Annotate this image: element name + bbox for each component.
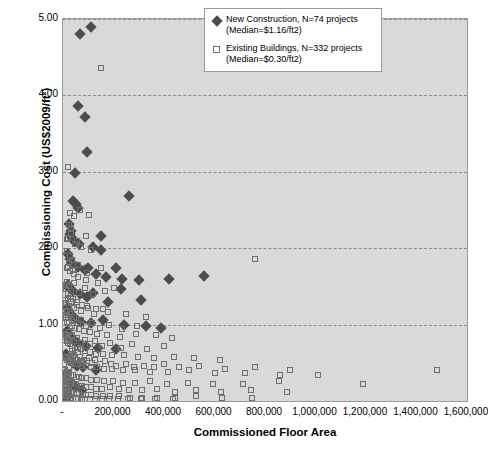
data-point [240, 381, 246, 387]
data-point [217, 357, 223, 363]
legend-label-line1: New Construction, N=74 projects [226, 14, 358, 24]
data-point [210, 381, 216, 387]
data-point [120, 367, 126, 373]
data-point [185, 380, 191, 386]
data-point [133, 275, 144, 286]
data-point [153, 332, 159, 338]
data-point [99, 343, 105, 349]
data-point [193, 387, 199, 393]
data-point [360, 381, 366, 387]
chart-legend: New Construction, N=74 projects (Median=… [204, 8, 382, 72]
data-point [72, 100, 83, 111]
data-point [116, 386, 122, 392]
data-point [86, 212, 92, 218]
data-point [75, 262, 81, 268]
data-point [81, 146, 92, 157]
data-point [176, 364, 182, 370]
data-point [139, 387, 145, 393]
data-point [161, 361, 167, 367]
data-point [110, 262, 121, 273]
data-point [78, 317, 84, 323]
data-point [135, 354, 141, 360]
data-point [151, 355, 157, 361]
data-point [115, 284, 126, 295]
y-axis-title: Commissioning Cost (US$2009/ft²) [40, 32, 52, 332]
data-point [117, 334, 123, 340]
data-point [99, 396, 105, 402]
data-point [82, 285, 88, 291]
data-point [92, 396, 98, 402]
data-point [109, 352, 115, 358]
data-point [164, 381, 170, 387]
data-point [101, 378, 107, 384]
data-point [100, 351, 106, 357]
y-axis-tick-labels: 0.001.002.003.004.005.00 [18, 18, 58, 402]
data-point [161, 343, 167, 349]
data-point [163, 273, 174, 284]
data-point [63, 390, 69, 396]
commissioning-cost-scatter-chart: 0.001.002.003.004.005.00 -200,000400,000… [0, 0, 488, 464]
data-point [315, 372, 321, 378]
data-point [64, 381, 70, 387]
x-tick-label: 200,000 [94, 406, 130, 417]
data-point [143, 314, 149, 320]
x-tick-label: - [60, 406, 63, 417]
data-point [133, 331, 139, 337]
data-point [287, 367, 293, 373]
data-point [88, 247, 94, 253]
data-point [123, 311, 129, 317]
data-point [98, 265, 104, 271]
data-point [110, 378, 116, 384]
gridline [63, 248, 467, 249]
x-tick-label: 1,000,000 [292, 406, 337, 417]
data-point [115, 396, 121, 402]
data-point [71, 280, 77, 286]
data-point [80, 111, 91, 122]
data-point [65, 374, 71, 380]
legend-label-line2: (Median=$1.16/ft2) [226, 25, 358, 36]
legend-label-line1: Existing Buildings, N=332 projects [226, 43, 362, 53]
data-point [172, 389, 178, 395]
data-point [68, 288, 74, 294]
data-point [111, 285, 117, 291]
data-point [93, 386, 99, 392]
data-point [113, 363, 119, 369]
data-point [434, 367, 440, 373]
data-point [98, 65, 104, 71]
data-point [120, 380, 126, 386]
data-point [90, 291, 96, 297]
data-point [170, 396, 176, 402]
data-point [99, 386, 105, 392]
open-square-icon [211, 44, 223, 56]
data-point [138, 396, 144, 402]
data-point [152, 396, 158, 402]
data-point [129, 341, 135, 347]
filled-diamond-icon [211, 15, 223, 27]
legend-item-new-construction: New Construction, N=74 projects (Median=… [211, 14, 375, 36]
data-point [95, 280, 101, 286]
data-point [66, 364, 72, 370]
data-point [95, 230, 106, 241]
x-axis-tick-labels: -200,000400,000600,000800,0001,000,0001,… [62, 406, 468, 420]
data-point [141, 363, 147, 369]
data-point [123, 361, 129, 367]
data-point [284, 389, 290, 395]
data-point [218, 389, 224, 395]
legend-item-existing-buildings: Existing Buildings, N=332 projects (Medi… [211, 43, 375, 65]
data-point [249, 395, 255, 401]
data-point [71, 213, 77, 219]
data-point [165, 369, 171, 375]
data-point [136, 294, 147, 305]
x-tick-label: 800,000 [246, 406, 282, 417]
data-point [104, 332, 110, 338]
data-point [118, 345, 124, 351]
data-point [71, 314, 77, 320]
data-point [65, 164, 71, 170]
x-tick-label: 1,400,000 [393, 406, 438, 417]
data-point [193, 393, 199, 399]
data-point [132, 380, 138, 386]
data-point [199, 270, 210, 281]
data-point [219, 395, 225, 401]
data-point [74, 29, 85, 40]
y-tick-label: 0.00 [24, 395, 58, 405]
